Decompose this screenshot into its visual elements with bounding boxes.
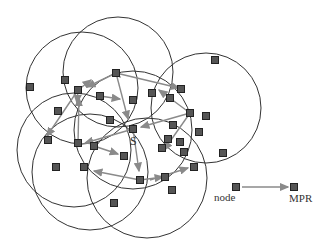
node: [220, 150, 227, 157]
node: [62, 77, 69, 84]
node: [191, 164, 198, 171]
node: [130, 126, 137, 133]
node: [75, 87, 82, 94]
node: [181, 149, 188, 156]
node: [187, 110, 194, 117]
node: [177, 139, 184, 146]
node: [159, 145, 166, 152]
arrow: [78, 98, 79, 143]
source-label: S: [130, 134, 137, 149]
node: [169, 187, 176, 194]
node: [130, 97, 137, 104]
node: [165, 136, 172, 143]
node: [137, 177, 144, 184]
node: [121, 153, 128, 160]
node: [167, 95, 174, 102]
node: [170, 122, 177, 129]
node: [75, 140, 82, 147]
node: [113, 70, 120, 77]
legend-mpr-label: MPR: [289, 192, 312, 204]
coverage-circle: [87, 118, 207, 238]
node: [111, 200, 118, 207]
node: [27, 84, 34, 91]
legend-mpr-icon: [291, 184, 298, 191]
node: [196, 129, 203, 136]
node: [149, 90, 156, 97]
coverage-circles: [17, 17, 261, 238]
node: [178, 86, 185, 93]
legend-node-label: node: [214, 191, 235, 203]
legend-node-icon: [233, 184, 240, 191]
node: [53, 164, 60, 171]
node: [97, 93, 104, 100]
node: [212, 57, 219, 64]
mpr-network-diagram: [0, 0, 327, 248]
node: [81, 164, 88, 171]
node: [55, 108, 62, 115]
node: [91, 143, 98, 150]
node: [203, 113, 210, 120]
node: [107, 117, 114, 124]
node: [162, 174, 169, 181]
legend: [233, 184, 298, 191]
node: [45, 137, 52, 144]
